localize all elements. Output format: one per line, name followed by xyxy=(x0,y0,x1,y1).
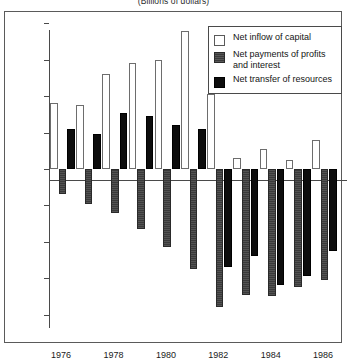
bar-inflow-1977 xyxy=(76,105,84,169)
legend-label-transfer: Net transfer of resources xyxy=(233,74,332,85)
legend-swatch-transfer xyxy=(214,77,225,88)
y-axis-tick xyxy=(44,205,49,206)
bar-payments-1985 xyxy=(294,169,302,287)
x-axis-tick-label: 1986 xyxy=(303,350,343,360)
bar-inflow-1982 xyxy=(207,94,215,169)
bar-payments-1983 xyxy=(242,169,250,295)
y-axis-tick xyxy=(44,315,49,316)
x-axis-tick-label: 1978 xyxy=(94,350,134,360)
x-axis-tick-label: 1976 xyxy=(41,350,81,360)
bar-inflow-1985 xyxy=(286,160,294,169)
bar-transfer-1984 xyxy=(277,169,285,285)
bar-transfer-1981 xyxy=(198,129,206,169)
bar-inflow-1980 xyxy=(155,60,163,169)
bar-inflow-1976 xyxy=(50,103,58,169)
bar-inflow-1978 xyxy=(102,74,110,169)
x-axis-tick-label: 1984 xyxy=(251,350,291,360)
bar-payments-1986 xyxy=(321,169,329,280)
legend-label-inflow: Net inflow of capital xyxy=(233,32,311,43)
bar-transfer-1983 xyxy=(251,169,259,256)
bar-transfer-1985 xyxy=(303,169,311,276)
bar-inflow-1986 xyxy=(312,140,320,169)
bar-payments-1977 xyxy=(85,169,93,204)
bar-inflow-1979 xyxy=(129,63,137,169)
chart-frame: 197619781980198219841986 Net inflow of c… xyxy=(4,11,342,343)
y-axis-tick xyxy=(44,60,49,61)
y-axis-line xyxy=(49,30,50,328)
bar-inflow-1983 xyxy=(233,158,241,169)
y-axis-tick xyxy=(44,242,49,243)
legend-item: Net payments of profits and interest xyxy=(214,49,337,71)
bar-payments-1979 xyxy=(137,169,145,229)
bar-payments-1981 xyxy=(190,169,198,269)
bar-payments-1980 xyxy=(163,169,171,247)
bar-payments-1982 xyxy=(216,169,224,307)
bar-inflow-1984 xyxy=(260,149,268,169)
y-axis-tick xyxy=(44,133,49,134)
bar-payments-1984 xyxy=(268,169,276,296)
bar-transfer-1978 xyxy=(120,113,128,169)
legend-item: Net transfer of resources xyxy=(214,74,337,88)
y-axis-tick xyxy=(44,278,49,279)
x-axis-tick-label: 1982 xyxy=(198,350,238,360)
bar-transfer-1986 xyxy=(329,169,337,251)
y-axis-tick xyxy=(44,23,49,24)
bar-transfer-1976 xyxy=(67,129,75,169)
chart-subtitle: (Billions of dollars) xyxy=(0,0,347,6)
bar-payments-1976 xyxy=(59,169,67,194)
y-axis-tick xyxy=(44,96,49,97)
x-axis-tick-label: 1980 xyxy=(146,350,186,360)
y-axis-tick xyxy=(44,169,49,170)
bar-transfer-1980 xyxy=(172,125,180,169)
legend-swatch-payments xyxy=(214,52,225,63)
legend-item: Net inflow of capital xyxy=(214,32,337,46)
bar-transfer-1982 xyxy=(224,169,232,267)
bar-inflow-1981 xyxy=(181,31,189,169)
bar-payments-1978 xyxy=(111,169,119,213)
bar-transfer-1979 xyxy=(146,116,154,169)
legend-swatch-inflow xyxy=(214,35,225,46)
bar-transfer-1977 xyxy=(93,134,101,169)
chart-legend: Net inflow of capital Net payments of pr… xyxy=(208,26,342,94)
legend-label-payments: Net payments of profits and interest xyxy=(233,49,337,71)
